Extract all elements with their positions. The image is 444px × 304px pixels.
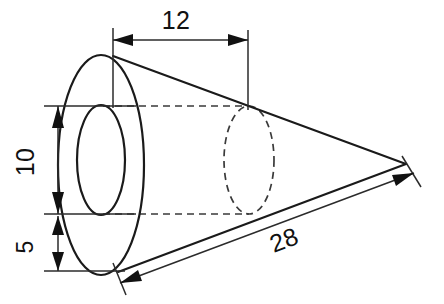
arrow-28-lower-left: [120, 270, 142, 283]
dim-label-5: 5: [12, 241, 38, 254]
arrow-5-top: [52, 216, 64, 235]
dim-label-10: 10: [11, 148, 39, 176]
ext-line-28-base-tick: [113, 263, 126, 295]
ext-line-28-apex-tick: [402, 156, 421, 187]
technical-drawing-canvas: 12 10 5 28: [0, 0, 444, 304]
arrow-12-right: [228, 34, 248, 46]
cone-outline-group: [58, 55, 406, 275]
cone-base-outer-ellipse: [58, 55, 144, 275]
cone-upper-slant-edge: [113, 56, 406, 164]
arrow-5-bottom: [52, 252, 64, 271]
cone-drawing-svg: 12 10 5 28: [0, 0, 444, 304]
dim-line-28: [120, 173, 414, 283]
hidden-features-group: [103, 106, 274, 214]
hidden-bore-end-ellipse: [224, 106, 274, 214]
dimension-slant-length-28: 28: [113, 156, 421, 295]
cone-base-inner-bore-ellipse: [77, 105, 125, 215]
dimension-wall-thickness-5: 5: [12, 216, 125, 271]
arrow-28-upper-right: [392, 173, 414, 186]
dim-label-12: 12: [162, 6, 190, 34]
arrow-12-left: [113, 34, 133, 46]
cone-lower-slant-edge: [118, 164, 406, 272]
